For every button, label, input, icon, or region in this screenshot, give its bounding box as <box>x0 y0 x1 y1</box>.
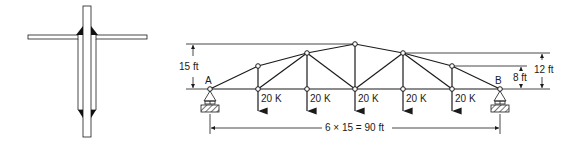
node-top-2 <box>305 51 310 56</box>
node-bottom-2 <box>305 87 310 92</box>
weld-bottom-left-icon <box>78 110 83 118</box>
node-top-5 <box>450 64 455 69</box>
node-bottom-1 <box>256 87 261 92</box>
stem-plate <box>83 6 91 137</box>
load-label-2: 20 K <box>310 93 331 104</box>
flange-left-arm <box>28 35 78 39</box>
dim-12ft-label: 12 ft <box>534 64 554 75</box>
diagonal-4 <box>403 53 452 89</box>
support-a-label: A <box>205 75 212 86</box>
node-bottom-3 <box>353 87 358 92</box>
node-top-1 <box>256 64 261 69</box>
truss-diagram: 15 ft 12 ft 8 ft <box>179 42 554 134</box>
load-label-1: 20 K <box>261 93 282 104</box>
support-a-pin-icon <box>201 91 219 112</box>
diagonal-3 <box>355 53 403 89</box>
diagonal-1 <box>258 53 307 89</box>
load-label-3: 20 K <box>358 93 379 104</box>
support-b-pin-icon <box>491 91 509 112</box>
t-joint-detail <box>28 6 147 137</box>
support-b-label: B <box>495 75 502 86</box>
dim-8ft-label: 8 ft <box>513 72 527 83</box>
dim-15ft-label: 15 ft <box>179 61 199 72</box>
flange-right-arm <box>96 35 147 39</box>
load-label-5: 20 K <box>455 93 476 104</box>
span-dim-label: 6 × 15 = 90 ft <box>325 122 384 133</box>
node-top-4 <box>401 51 406 56</box>
weld-top-left-icon <box>76 26 83 35</box>
node-bottom-4 <box>401 87 406 92</box>
node-apex <box>353 42 358 47</box>
diagonal-2 <box>307 53 355 89</box>
weld-top-right-icon <box>91 26 98 35</box>
load-label-4: 20 K <box>406 93 427 104</box>
weld-bottom-right-icon <box>91 110 96 118</box>
node-bottom-5 <box>450 87 455 92</box>
figure-canvas: 15 ft 12 ft 8 ft <box>0 0 583 148</box>
